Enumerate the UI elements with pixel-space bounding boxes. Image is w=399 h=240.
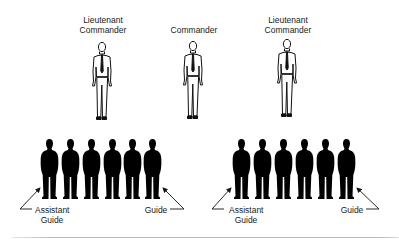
arrow-icon (20, 188, 379, 209)
guide-label-right: Guide (340, 205, 364, 215)
assistant-guide-label-line1: Assistant (35, 205, 69, 215)
guide-label-text: Guide (144, 205, 168, 215)
arrows-layer (0, 0, 399, 240)
assistant-guide-label-line2: Guide (35, 215, 69, 225)
assistant-guide-label-left: Assistant Guide (35, 205, 69, 225)
assistant-guide-label-line2: Guide (229, 215, 263, 225)
assistant-guide-label-line1: Assistant (229, 205, 263, 215)
bottom-divider (12, 237, 399, 238)
assistant-guide-label-right: Assistant Guide (229, 205, 263, 225)
guide-label-left: Guide (144, 205, 168, 215)
guide-label-text: Guide (340, 205, 364, 215)
